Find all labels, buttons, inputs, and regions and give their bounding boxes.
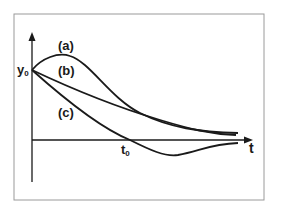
figure-frame	[14, 14, 264, 200]
t-axis-label: t	[249, 140, 254, 156]
curve-c-label: (c)	[58, 105, 74, 120]
curve-b-label: (b)	[58, 63, 75, 78]
curve-a-label: (a)	[58, 38, 74, 53]
response-curves-diagram: (a) (b) (c) y0 t0 t	[0, 0, 283, 211]
